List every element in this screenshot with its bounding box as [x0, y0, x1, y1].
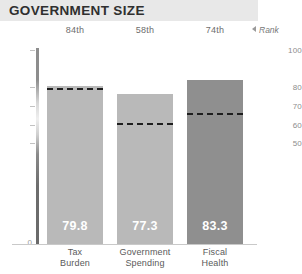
category-label-line2: Health: [202, 258, 229, 268]
average-line-fiscal-health: [187, 113, 243, 115]
bar-value-fiscal-health: 83.3: [187, 219, 243, 233]
y-tick-label-0: 0: [12, 238, 32, 247]
bar-value-tax-burden: 79.8: [47, 219, 103, 233]
bar-tax-burden[interactable]: 79.8: [47, 86, 103, 244]
category-label-line2: Spending: [125, 258, 164, 268]
y-axis-spine: [36, 48, 39, 245]
category-label-tax-burden: Tax Burden: [47, 247, 103, 269]
category-label-line1: Tax: [68, 247, 82, 257]
y-tick-mark-50: [30, 143, 35, 144]
y-tick-label-50: 50: [278, 139, 302, 148]
y-tick-mark-80: [30, 87, 35, 88]
x-axis-baseline: [12, 244, 257, 245]
category-label-fiscal-health: Fiscal Health: [187, 247, 243, 269]
bar-fiscal-health[interactable]: 83.3: [187, 80, 243, 244]
category-label-line2: Burden: [60, 258, 90, 268]
y-tick-mark-60: [30, 125, 35, 126]
bar-value-government-spending: 77.3: [117, 219, 173, 233]
bar-government-spending[interactable]: 77.3: [117, 94, 173, 244]
y-tick-label-100: 100: [278, 46, 302, 55]
average-line-government-spending: [117, 123, 173, 125]
y-tick-label-80: 80: [278, 83, 302, 92]
y-tick-label-60: 60: [278, 121, 302, 130]
category-label-line1: Government: [119, 247, 170, 257]
category-label-government-spending: Government Spending: [112, 247, 178, 269]
y-tick-mark-70: [30, 106, 35, 107]
category-label-line1: Fiscal: [203, 247, 227, 257]
average-line-tax-burden: [47, 88, 103, 90]
bar-chart-plot: 100 80 70 60 50 0 79.8 Tax Burden 77.3 G…: [0, 0, 302, 274]
y-tick-label-70: 70: [278, 102, 302, 111]
y-tick-mark-100: [30, 50, 35, 51]
